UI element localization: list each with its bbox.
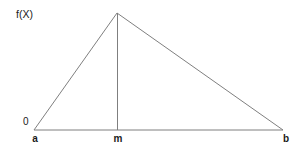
y-axis-label: f(X)	[16, 9, 33, 20]
origin-label: 0	[23, 116, 29, 127]
x-tick-label-m: m	[114, 133, 123, 144]
pdf-left-edge-line	[34, 13, 117, 130]
triangular-distribution-figure: f(X) 0 a m b	[0, 0, 296, 149]
x-tick-label-b: b	[283, 133, 289, 144]
x-tick-label-a: a	[32, 133, 38, 144]
pdf-right-edge-line	[117, 13, 283, 130]
distribution-plot-canvas	[0, 0, 296, 149]
